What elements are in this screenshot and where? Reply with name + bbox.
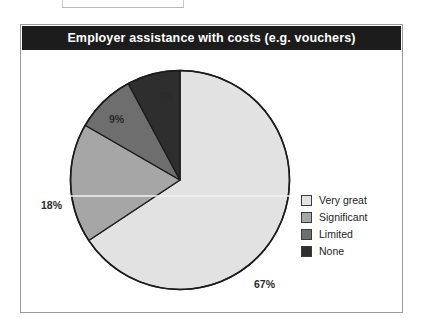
page-top-divider <box>62 7 184 8</box>
legend-label-very-great: Very great <box>319 195 367 206</box>
legend-swatch-limited <box>301 229 312 240</box>
chart-panel: Employer assistance with costs (e.g. vou… <box>20 24 403 313</box>
legend-label-none: None <box>319 246 344 257</box>
legend-swatch-significant <box>301 212 312 223</box>
chart-legend: Very great Significant Limited None <box>301 192 395 260</box>
page-top-fragment-text: GUIDANCE AND SUPPORT <box>67 0 150 1</box>
legend-label-limited: Limited <box>319 229 353 240</box>
pie-chart <box>69 69 291 291</box>
legend-swatch-none <box>301 246 312 257</box>
legend-item-significant[interactable]: Significant <box>301 209 395 226</box>
pie-label-limited: 9% <box>109 113 124 125</box>
pie-slices <box>71 71 290 290</box>
pie-label-significant: 18% <box>41 199 62 211</box>
pie-label-none: 8% <box>159 90 174 102</box>
page-title: Employer assistance with costs (e.g. vou… <box>67 31 355 45</box>
legend-item-limited[interactable]: Limited <box>301 226 395 243</box>
legend-swatch-very-great <box>301 195 312 206</box>
plot-area: 8% 9% 18% 67% Very great Significant Lim… <box>21 50 402 312</box>
legend-item-none[interactable]: None <box>301 243 395 260</box>
legend-item-very-great[interactable]: Very great <box>301 192 395 209</box>
chart-title-bar: Employer assistance with costs (e.g. vou… <box>22 26 401 50</box>
pie-label-very-great: 67% <box>254 278 275 290</box>
legend-label-significant: Significant <box>319 212 367 223</box>
